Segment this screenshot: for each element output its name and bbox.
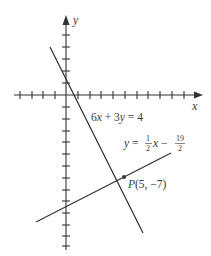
x-axis [14,91,198,99]
x-axis-label: x [191,99,198,113]
y-axis [62,22,70,250]
line-2-label: y = 1 2 x − 19 2 [123,134,185,153]
svg-text:19: 19 [176,134,184,143]
point-p-marker [122,175,126,179]
y-axis-label: y [72,13,79,27]
point-p-label: P(5, −7) [127,178,167,191]
svg-text:2: 2 [146,144,150,153]
y-axis-arrow-icon [63,15,70,25]
svg-text:x −: x − [152,137,167,149]
svg-text:2: 2 [178,144,182,153]
x-axis-arrow-icon [194,92,203,99]
coordinate-diagram: x y 6x + 3y = 4 y = 1 [0,0,211,256]
line-1-label: 6x + 3y = 4 [91,111,143,124]
svg-text:y =: y = [123,137,138,150]
svg-text:1: 1 [146,134,150,143]
